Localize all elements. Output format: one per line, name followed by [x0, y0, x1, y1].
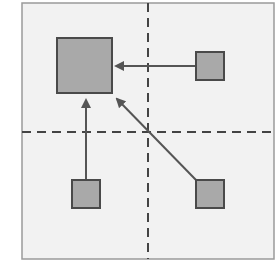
box-source-bottom-left	[72, 180, 100, 208]
box-source-bottom-right	[196, 180, 224, 208]
quadrant-diagram	[0, 0, 280, 268]
box-target-large	[57, 38, 112, 93]
box-source-top-right	[196, 52, 224, 80]
